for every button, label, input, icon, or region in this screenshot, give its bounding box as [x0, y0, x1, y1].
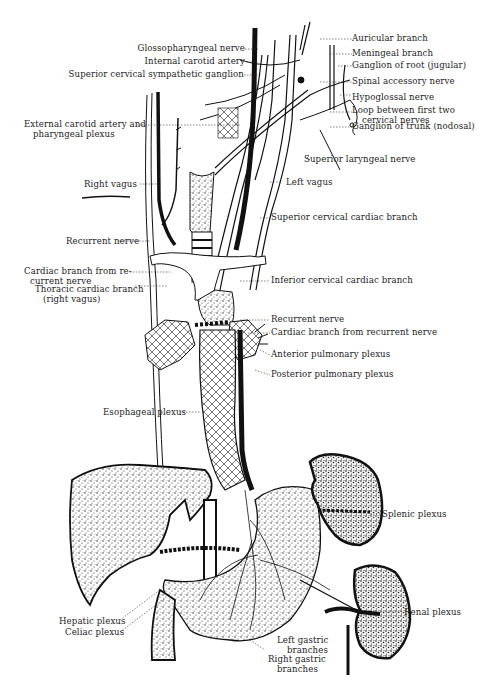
- label-thoracic-cardiac-branch: Thoracic cardiac branch (right vagus): [35, 285, 144, 304]
- label-glossopharyngeal-nerve: Glossopharyngeal nerve: [138, 44, 246, 54]
- label-anterior-pulmonary-plexus: Anterior pulmonary plexus: [271, 350, 390, 360]
- label-posterior-pulmonary-plexus: Posterior pulmonary plexus: [271, 370, 394, 380]
- label-splenic-plexus: Splenic plexus: [382, 510, 447, 520]
- label-meningeal-branch: Meningeal branch: [352, 49, 433, 59]
- label-recurrent-nerve-right: Recurrent nerve: [66, 237, 139, 247]
- label-right-gastric-branches: Right gastric branches: [268, 655, 326, 674]
- vagus-nerve-illustration: [0, 0, 490, 684]
- label-auricular-branch: Auricular branch: [352, 34, 428, 44]
- label-thoracic-line2: (right vagus): [35, 295, 144, 305]
- duodenum: [152, 590, 175, 660]
- label-superior-cervical-cardiac-branch: Superior cervical cardiac branch: [271, 213, 418, 223]
- label-right-vagus: Right vagus: [84, 180, 137, 190]
- label-ganglion-of-root: Ganglion of root (jugular): [352, 61, 466, 71]
- label-esophageal-plexus: Esophageal plexus: [103, 408, 186, 418]
- label-left-vagus: Left vagus: [286, 178, 333, 188]
- label-external-carotid: External carotid artery and pharyngeal p…: [24, 120, 146, 139]
- label-hypoglossal-nerve: Hypoglossal nerve: [352, 93, 434, 103]
- pharyngeal-plexus: [218, 108, 238, 138]
- label-superior-cervical-sympathetic-ganglion: Superior cervical sympathetic ganglion: [69, 70, 244, 80]
- label-internal-carotid-artery: Internal carotid artery: [145, 57, 245, 67]
- label-cardiac-branch-from-recurrent-left: Cardiac branch from recurrent nerve: [271, 328, 437, 338]
- label-recurrent-nerve-left: Recurrent nerve: [271, 315, 344, 325]
- label-hepatic-plexus: Hepatic plexus: [59, 617, 125, 627]
- label-left-gastric-branches: Left gastric branches: [277, 636, 329, 655]
- aortic-arch: [150, 253, 266, 325]
- label-ganglion-of-trunk: Ganglion of trunk (nodosal): [352, 122, 475, 132]
- underline-mark: [82, 196, 130, 198]
- hepatic-plexus-band: [160, 548, 240, 552]
- label-superior-laryngeal-nerve: Superior laryngeal nerve: [304, 155, 416, 165]
- label-celiac-plexus: Celiac plexus: [65, 628, 124, 638]
- vena-cava: [204, 500, 216, 580]
- label-spinal-accessory-nerve: Spinal accessory nerve: [352, 77, 455, 87]
- label-inferior-cervical-cardiac-branch: Inferior cervical cardiac branch: [271, 276, 413, 286]
- label-renal-plexus: Renal plexus: [404, 608, 461, 618]
- label-right-gastric-line2: branches: [268, 665, 326, 675]
- label-external-carotid-line2: pharyngeal plexus: [24, 130, 146, 140]
